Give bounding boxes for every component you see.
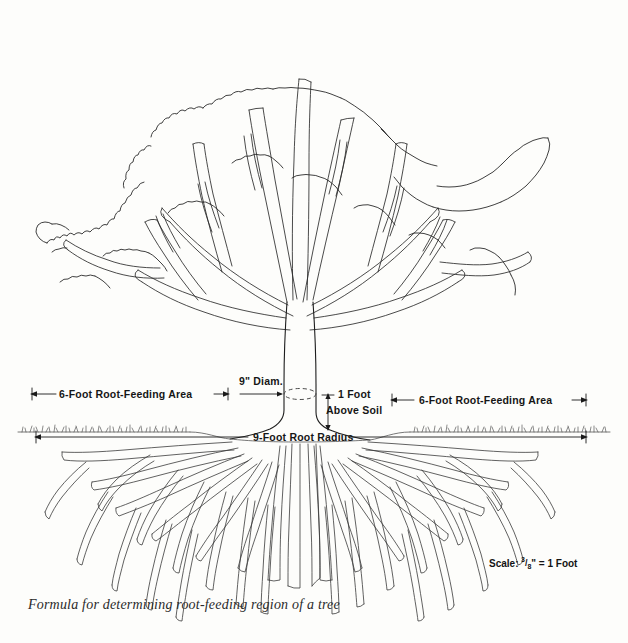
- figure-caption: Formula for determining root-feeding reg…: [28, 597, 340, 613]
- scale-fraction: 3/8: [518, 556, 531, 570]
- tree-diagram-svg: [0, 0, 628, 643]
- root-radius-label: 9-Foot Root Radius: [253, 431, 353, 443]
- trunk-diameter-label: 9" Diam.: [239, 375, 283, 387]
- root-system: [45, 442, 555, 621]
- tree-branches: [63, 79, 531, 330]
- tree-trunk: [230, 302, 370, 440]
- scale-numerator: 3: [521, 556, 525, 563]
- above-soil-height-label-line1: 1 Foot: [338, 388, 371, 400]
- root-feeding-area-label-left: 6-Foot Root-Feeding Area: [59, 388, 192, 400]
- dashed-diameter-ellipse: [284, 389, 316, 400]
- figure-root: 9" Diam. 1 Foot Above Soil 6-Foot Root-F…: [0, 0, 628, 643]
- root-feeding-area-label-right: 6-Foot Root-Feeding Area: [419, 394, 552, 406]
- above-soil-height-label-line2: Above Soil: [326, 404, 382, 416]
- scale-note: Scale: 3/8" = 1 Foot: [489, 557, 577, 571]
- scale-prefix: Scale:: [489, 558, 518, 569]
- scale-suffix: " = 1 Foot: [531, 558, 577, 569]
- scale-denominator: 8: [527, 563, 531, 570]
